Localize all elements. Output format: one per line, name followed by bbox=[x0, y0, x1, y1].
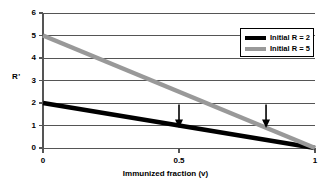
legend-label-0: Initial R = 2 bbox=[270, 34, 310, 42]
legend-label-1: Initial R = 5 bbox=[270, 45, 310, 53]
legend-entry-1: Initial R = 5 bbox=[245, 43, 310, 54]
legend-swatch-icon-0 bbox=[245, 36, 266, 40]
y-axis-title: R' bbox=[12, 73, 21, 81]
x-axis-title: Immunized fraction (v) bbox=[0, 170, 331, 178]
legend: Initial R = 2 Initial R = 5 bbox=[240, 28, 314, 57]
y-tick-label-4: 4 bbox=[24, 54, 36, 62]
legend-swatch-icon-1 bbox=[245, 47, 266, 51]
y-tick-label-3: 3 bbox=[24, 77, 36, 85]
y-tick-label-6: 6 bbox=[24, 9, 36, 17]
legend-entry-0: Initial R = 2 bbox=[245, 32, 310, 43]
x-tick-label-0-5: 0.5 bbox=[169, 157, 189, 165]
x-tick-marks bbox=[43, 148, 315, 153]
x-tick-label-1: 1 bbox=[305, 157, 325, 165]
x-tick-label-0: 0 bbox=[33, 157, 53, 165]
y-tick-label-2: 2 bbox=[24, 99, 36, 107]
y-tick-label-0: 0 bbox=[24, 144, 36, 152]
chart-page: 6 5 4 3 2 1 0 0 0.5 1 R' Immunized fract… bbox=[0, 0, 331, 187]
y-tick-label-1: 1 bbox=[24, 122, 36, 130]
y-tick-label-5: 5 bbox=[24, 32, 36, 40]
